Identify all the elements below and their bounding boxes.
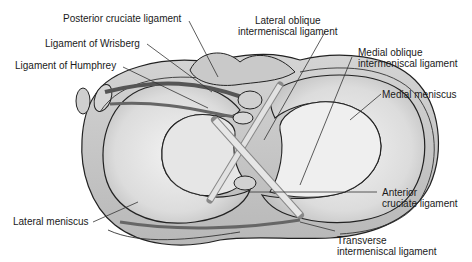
label-ligament-of-wrisberg: Ligament of Wrisberg	[45, 38, 140, 49]
label-anterior-cruciate-ligament: Anterior cruciate ligament	[382, 187, 458, 209]
label-lateral-meniscus: Lateral meniscus	[13, 216, 89, 227]
label-transverse-intermeniscal-ligament: Transverse intermeniscal ligament	[337, 235, 437, 257]
acl-insertion	[234, 176, 256, 190]
lateral-meniscus-inner	[162, 115, 245, 196]
label-medial-oblique-ligament: Medial oblique intermeniscal ligament	[358, 47, 458, 69]
label-medial-meniscus: Medial meniscus	[382, 89, 456, 100]
label-posterior-cruciate-ligament: Posterior cruciate ligament	[63, 13, 181, 24]
lateral-tissue-nodule	[76, 88, 90, 114]
label-lateral-oblique-ligament: Lateral oblique intermeniscal ligament	[238, 15, 338, 37]
label-ligament-of-humphrey: Ligament of Humphrey	[15, 60, 116, 71]
pcl-insertion	[238, 91, 262, 109]
